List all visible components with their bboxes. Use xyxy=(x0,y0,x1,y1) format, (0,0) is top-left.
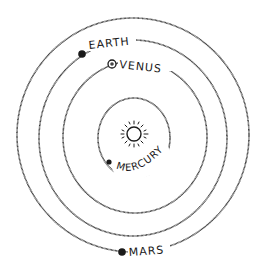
mars-planet-icon xyxy=(118,248,126,256)
venus-planet-icon xyxy=(108,60,116,68)
sun-icon xyxy=(121,121,148,147)
mars-label: MARS xyxy=(128,244,164,259)
solar-system-diagram: EARTH VENUS MERCURY MARS xyxy=(0,0,266,273)
mercury-planet-icon xyxy=(106,159,111,164)
earth-planet-icon xyxy=(78,50,86,58)
